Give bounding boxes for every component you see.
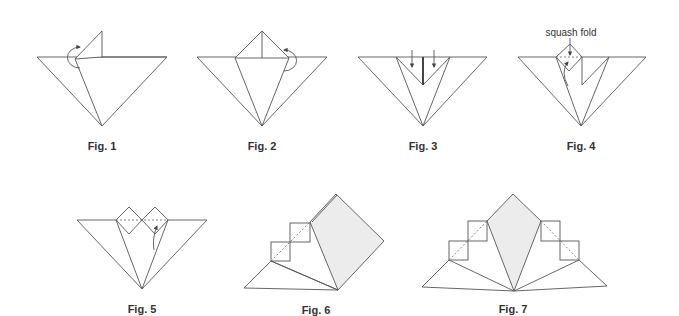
- squash-fold-label: squash fold: [545, 27, 596, 38]
- figure-caption: Fig. 1: [88, 140, 117, 152]
- figure-caption: Fig. 7: [499, 303, 528, 315]
- diagram-canvas: [0, 0, 679, 316]
- figure-1-drawing: [37, 31, 167, 126]
- figure-caption: Fig. 2: [248, 140, 277, 152]
- figure-caption: Fig. 6: [302, 304, 331, 316]
- figure-3-drawing: [358, 50, 487, 126]
- figure-5-drawing: [77, 207, 207, 289]
- figure-caption: Fig. 5: [128, 303, 157, 315]
- figure-4-drawing: [518, 38, 646, 126]
- figure-6-drawing: [244, 194, 384, 290]
- figure-7-drawing: [422, 194, 607, 291]
- figure-caption: Fig. 4: [567, 140, 596, 152]
- figure-2-drawing: [197, 31, 327, 126]
- figure-caption: Fig. 3: [409, 140, 438, 152]
